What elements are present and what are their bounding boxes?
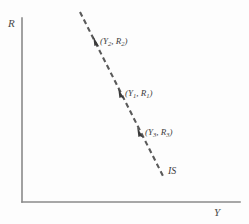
y-axis-label: R bbox=[8, 18, 15, 29]
point-label-2-mid: , R bbox=[111, 36, 121, 46]
point-label-2-sub2: 2 bbox=[121, 40, 124, 47]
point-label-3: (Y3, R3) bbox=[145, 128, 173, 137]
point-label-1-open: (Y bbox=[125, 88, 133, 98]
x-axis-label: Y bbox=[214, 207, 220, 218]
figure-canvas bbox=[0, 0, 249, 224]
point-label-2-open: (Y bbox=[100, 36, 108, 46]
point-label-3-sub2: 3 bbox=[166, 131, 169, 138]
is-curve-figure: R Y (Y2, R2) (Y1, R1) (Y3, R3) IS bbox=[0, 0, 249, 224]
point-label-1: (Y1, R1) bbox=[125, 89, 153, 98]
is-curve-label: IS bbox=[168, 166, 176, 176]
point-label-2-sub1: 2 bbox=[108, 40, 111, 47]
point-label-1-sub1: 1 bbox=[133, 92, 136, 99]
point-label-2: (Y2, R2) bbox=[100, 37, 128, 46]
point-label-1-sub2: 1 bbox=[146, 92, 149, 99]
point-label-3-open: (Y bbox=[145, 127, 153, 137]
point-label-3-sub1: 3 bbox=[153, 131, 156, 138]
point-label-3-mid: , R bbox=[156, 127, 166, 137]
point-label-1-mid: , R bbox=[136, 88, 146, 98]
